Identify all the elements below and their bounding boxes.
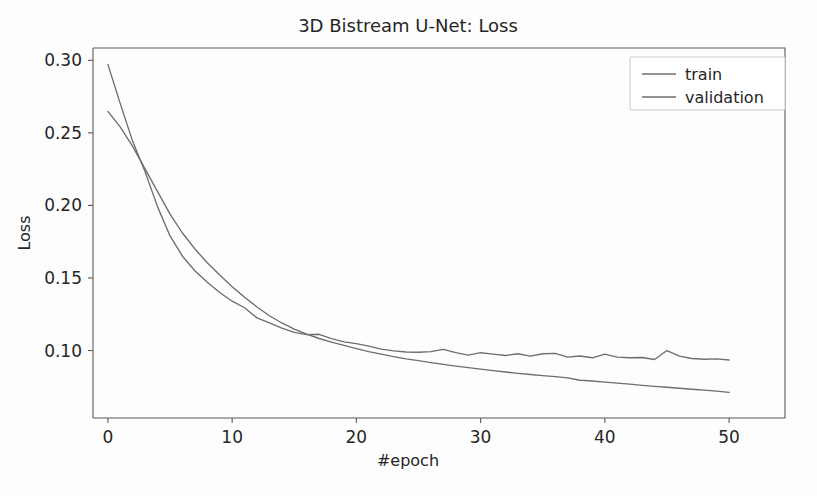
- page-title: 3D Bistream U-Net: Loss: [298, 15, 518, 36]
- y-tick-label: 0.15: [44, 268, 82, 288]
- series-group: [108, 64, 729, 392]
- series-line-train: [108, 111, 729, 392]
- legend-label-validation[interactable]: validation: [685, 88, 764, 107]
- y-tick-label: 0.25: [44, 123, 82, 143]
- loss-chart: 010203040500.100.150.200.250.30 trainval…: [0, 0, 817, 496]
- x-tick-label: 10: [221, 427, 243, 447]
- x-tick-label: 40: [594, 427, 616, 447]
- x-tick-label: 0: [102, 427, 113, 447]
- chart-legend[interactable]: trainvalidation: [630, 57, 785, 110]
- legend-label-train[interactable]: train: [685, 65, 722, 84]
- y-axis-label: Loss: [15, 215, 34, 250]
- x-tick-label: 20: [346, 427, 368, 447]
- x-tick-label: 50: [718, 427, 740, 447]
- figure-canvas: 010203040500.100.150.200.250.30 trainval…: [0, 0, 817, 496]
- y-tick-label: 0.30: [44, 50, 82, 70]
- x-tick-label: 30: [470, 427, 492, 447]
- y-tick-label: 0.10: [44, 341, 82, 361]
- x-axis-label: #epoch: [377, 451, 439, 470]
- y-tick-label: 0.20: [44, 195, 82, 215]
